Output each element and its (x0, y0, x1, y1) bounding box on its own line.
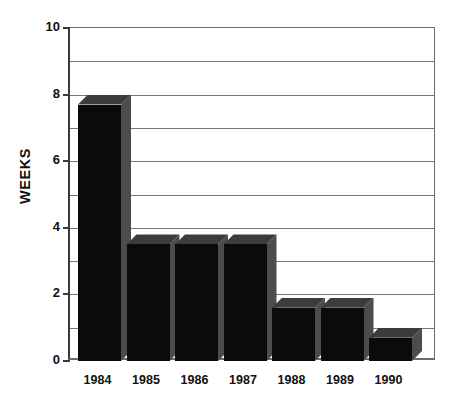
bar-front-face (127, 244, 170, 361)
bar-1988 (272, 28, 325, 361)
x-axis-tick-label: 1989 (326, 373, 354, 387)
bar-front-face (369, 338, 412, 361)
bar-front-face (272, 308, 315, 361)
y-axis-tick-mark (63, 160, 70, 162)
x-axis-tick-label: 1987 (229, 373, 257, 387)
bar-front-face (321, 308, 364, 361)
x-axis-tick-label: 1985 (132, 373, 160, 387)
y-axis-tick-mark (63, 293, 70, 295)
y-axis-tick-mark (63, 27, 70, 29)
y-axis-tick-label: 2 (53, 286, 60, 299)
bar-1986 (175, 28, 228, 361)
x-axis-tick-labels: 1984198519861987198819891990 (0, 373, 460, 393)
y-axis-title: WEEKS (17, 133, 33, 219)
y-axis-tick-label: 6 (53, 153, 60, 166)
bar-1990 (369, 28, 422, 361)
y-axis-tick-label: 8 (53, 87, 60, 100)
y-axis-tick-label: 0 (53, 353, 60, 366)
bar-1987 (224, 28, 277, 361)
y-axis-tick-label: 4 (53, 220, 60, 233)
y-axis-tick-label: 10 (46, 20, 60, 33)
bar-1984 (78, 28, 131, 361)
x-axis-tick-label: 1986 (181, 373, 209, 387)
plot-area (68, 27, 435, 360)
y-axis-tick-mark (63, 94, 70, 96)
x-axis-tick-label: 1990 (375, 373, 403, 387)
bar-front-face (78, 105, 121, 361)
bar-1989 (321, 28, 374, 361)
bar-front-face (175, 244, 218, 361)
bar-1985 (127, 28, 180, 361)
x-axis-tick-label: 1984 (84, 373, 112, 387)
x-axis-tick-label: 1988 (278, 373, 306, 387)
y-axis-tick-mark (63, 227, 70, 229)
bar-chart-figure: 1086420 WEEKS 19841985198619871988198919… (0, 0, 460, 415)
bar-front-face (224, 244, 267, 361)
y-axis-tick-mark (63, 360, 70, 362)
